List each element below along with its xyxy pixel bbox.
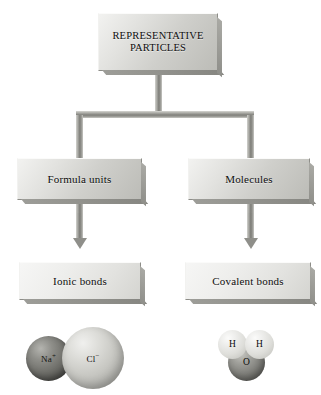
arrow-shaft bbox=[247, 213, 254, 239]
node-formula-units: Formula units bbox=[17, 158, 142, 200]
arrow-to-ionic-bonds bbox=[73, 213, 87, 251]
arrow-to-covalent-bonds bbox=[244, 213, 258, 251]
sphere-hydrogen-left-label: H bbox=[229, 340, 236, 350]
node-covalent-bonds: Covalent bonds bbox=[185, 262, 311, 300]
node-representative-particles: REPRESENTATIVE PARTICLES bbox=[98, 13, 218, 71]
arrow-head-icon bbox=[244, 238, 258, 249]
illustration-water-molecule: H H O bbox=[218, 330, 276, 386]
node-ionic-bonds: Ionic bonds bbox=[19, 262, 141, 300]
sphere-sodium-label: Na+ bbox=[41, 353, 56, 364]
node-ionic-bonds-label: Ionic bonds bbox=[53, 275, 107, 288]
illustration-sodium-chloride: Na+ Cl− bbox=[26, 327, 126, 389]
node-representative-particles-label: REPRESENTATIVE PARTICLES bbox=[99, 30, 217, 54]
node-covalent-bonds-label: Covalent bonds bbox=[212, 275, 284, 288]
sphere-hydrogen-right: H bbox=[245, 330, 274, 359]
arrow-head-icon bbox=[73, 238, 87, 249]
sphere-hydrogen-right-label: H bbox=[256, 340, 263, 350]
flowchart-diagram: REPRESENTATIVE PARTICLES Formula units M… bbox=[0, 0, 321, 395]
sphere-oxygen-label: O bbox=[243, 358, 250, 368]
node-molecules-label: Molecules bbox=[225, 173, 273, 186]
connector-crossbar-horizontal bbox=[76, 111, 254, 118]
sphere-hydrogen-left: H bbox=[218, 330, 247, 359]
connector-trunk-vertical bbox=[155, 70, 162, 115]
sphere-chloride-label: Cl− bbox=[86, 353, 99, 364]
node-molecules: Molecules bbox=[188, 158, 310, 200]
arrow-shaft bbox=[76, 213, 83, 239]
sphere-chloride-ion: Cl− bbox=[62, 327, 124, 389]
node-formula-units-label: Formula units bbox=[47, 173, 111, 186]
